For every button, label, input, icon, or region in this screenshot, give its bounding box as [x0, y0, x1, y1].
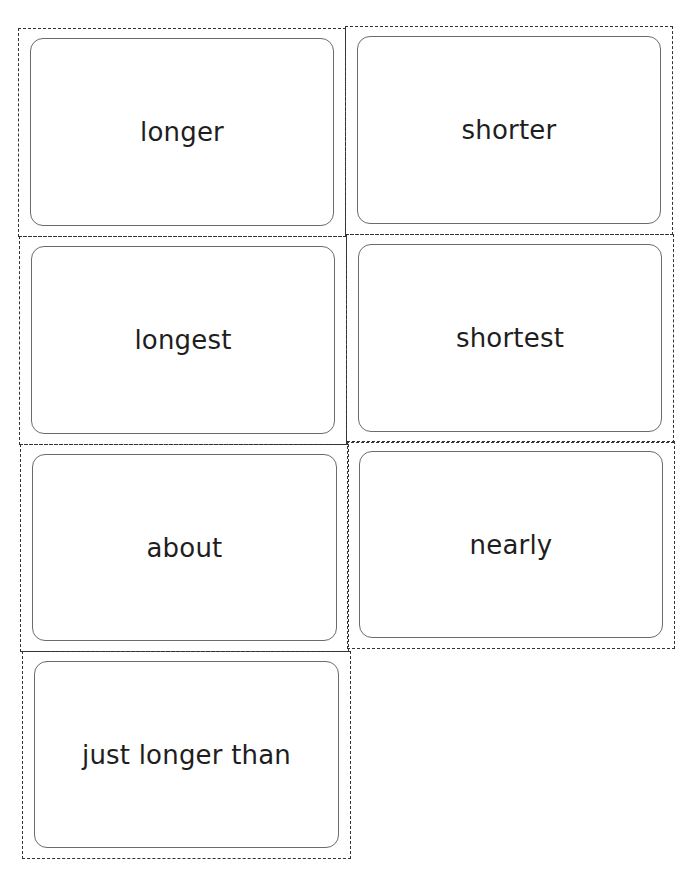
card-word: longest — [134, 325, 231, 355]
cut-cell-4: shortest — [346, 234, 674, 443]
card-word: nearly — [470, 530, 553, 560]
cut-cell-2: shorter — [345, 26, 673, 235]
cut-cell-7: just longer than — [22, 651, 351, 859]
card-word: shortest — [456, 323, 564, 353]
cut-cell-6: nearly — [347, 441, 675, 649]
word-card: longer — [30, 38, 334, 226]
word-card: shorter — [357, 36, 661, 224]
cut-cell-3: longest — [19, 236, 347, 445]
word-card: just longer than — [34, 661, 339, 848]
card-word: about — [146, 533, 222, 563]
card-word: longer — [140, 117, 224, 147]
cut-cell-1: longer — [18, 28, 346, 237]
word-card: about — [32, 454, 337, 641]
cut-cell-5: about — [20, 444, 349, 652]
card-word: just longer than — [82, 740, 291, 770]
word-card: longest — [31, 246, 335, 434]
word-card: nearly — [359, 451, 663, 638]
card-word: shorter — [462, 115, 557, 145]
word-card: shortest — [358, 244, 662, 432]
